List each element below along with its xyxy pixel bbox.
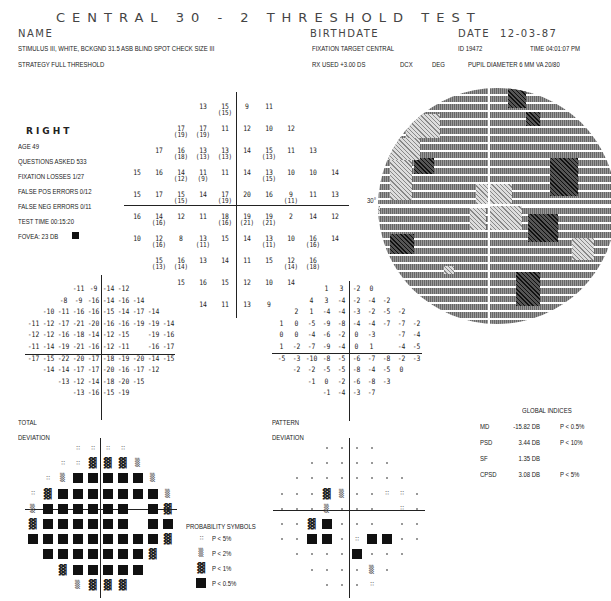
- probability-cell: [194, 576, 208, 590]
- probability-cell: [395, 547, 409, 561]
- p-0.5-square-icon: [103, 549, 113, 559]
- td-value: -16: [102, 320, 115, 327]
- pd-value: 0: [350, 331, 363, 338]
- threshold-cell: 12(16): [151, 235, 168, 249]
- pd-value: -9: [320, 320, 333, 327]
- td-value: -17: [87, 366, 100, 373]
- threshold-value: 11: [287, 146, 295, 155]
- probability-cell: [116, 563, 130, 577]
- questions-asked: QUESTIONS ASKED 533: [18, 157, 87, 166]
- normal-dot-icon: [326, 553, 328, 555]
- pd-value: -4: [365, 320, 378, 327]
- threshold-cell: 19(21): [239, 213, 256, 227]
- probability-cell: [305, 487, 319, 501]
- td-value: -11: [27, 343, 40, 350]
- rx-used: RX USED +3.00 DS: [312, 60, 365, 69]
- probability-cell: [101, 547, 115, 561]
- date-value: 12-03-87: [500, 28, 557, 39]
- p-1-symbol-icon: ▓: [149, 549, 157, 559]
- probability-cell: [305, 502, 319, 516]
- pd-value: 0: [365, 285, 378, 292]
- probability-cell: ▒: [26, 502, 40, 516]
- td-value: -12: [102, 343, 115, 350]
- pd-value: -8: [350, 366, 363, 373]
- threshold-repeat-value: (19): [173, 132, 190, 139]
- p-2-symbol-icon: ▒: [150, 474, 155, 482]
- td-value: -16: [117, 297, 130, 304]
- td-value: -14: [57, 366, 70, 373]
- threshold-cell: 8: [173, 235, 190, 242]
- threshold-repeat-value: (13): [195, 154, 212, 161]
- threshold-axis-horizontal: [124, 205, 349, 206]
- p-0.5-square-icon: [322, 534, 332, 544]
- normal-dot-icon: [326, 462, 328, 464]
- p-0.5-square-icon: [382, 534, 392, 544]
- td-value: -10: [42, 308, 55, 315]
- probability-cell: [116, 517, 130, 531]
- probability-cell: [365, 517, 379, 531]
- threshold-cell: 10: [305, 169, 322, 176]
- p-0.5-square-icon: [73, 504, 83, 514]
- pd-value: 1: [320, 285, 333, 292]
- threshold-cell: 13(15): [261, 169, 278, 183]
- threshold-cell: 10: [283, 169, 300, 176]
- threshold-value: 13: [243, 300, 251, 309]
- threshold-cell: 16(18): [305, 257, 322, 271]
- pd-value: 1: [275, 320, 288, 327]
- pd-value: 1: [365, 343, 378, 350]
- normal-dot-icon: [416, 493, 418, 495]
- normal-dot-icon: [296, 553, 298, 555]
- probability-cell: ∷: [365, 578, 379, 592]
- greyscale-stripe: [378, 280, 611, 286]
- p-0.5-square-icon: [103, 504, 113, 514]
- pd-value: -2: [365, 308, 378, 315]
- test-time-of-day: TIME 04:01:07 PM: [530, 44, 580, 53]
- probability-cell: [380, 471, 394, 485]
- pd-value: -5: [380, 366, 393, 373]
- p-0.5-square-icon: [118, 489, 128, 499]
- threshold-cell: 15: [261, 257, 278, 264]
- p-2-symbol-icon: ▒: [30, 505, 35, 513]
- pd-value: -5: [410, 343, 423, 350]
- probability-cell: ∷: [380, 487, 394, 501]
- index-value: 1.35 DB: [504, 454, 540, 463]
- p-0.5-square-icon: [133, 473, 143, 483]
- threshold-cell: 11(9): [195, 169, 212, 183]
- probability-cell: [290, 547, 304, 561]
- probability-cell: [275, 532, 289, 546]
- p-0.5-square-icon: [58, 519, 68, 529]
- threshold-value: 12: [243, 124, 251, 133]
- td-value: -15: [117, 331, 130, 338]
- probability-cell: [26, 532, 40, 546]
- pd-value: 0: [320, 378, 333, 385]
- p-0.5-square-icon: [73, 519, 83, 529]
- p-0.5-square-icon: [58, 489, 68, 499]
- td-value: -16: [162, 331, 175, 338]
- p-1-symbol-icon: ▓: [119, 580, 127, 590]
- p-5-dots-icon: ∷: [121, 445, 124, 452]
- pd-value: -6: [320, 331, 333, 338]
- greyscale-axis-vertical: [488, 88, 490, 324]
- p-0.5-square-icon: [43, 504, 53, 514]
- p-0.5-square-icon: [118, 519, 128, 529]
- pd-value: -2: [290, 366, 303, 373]
- threshold-cell: 11: [195, 213, 212, 220]
- pd-value: -2: [305, 366, 318, 373]
- threshold-repeat-value: (18): [305, 264, 322, 271]
- probability-cell: [320, 547, 334, 561]
- probability-cell: [365, 456, 379, 470]
- threshold-value: 11: [309, 190, 317, 199]
- threshold-cell: 15: [173, 279, 190, 286]
- pd-value: -5: [320, 366, 333, 373]
- threshold-cell: 15: [217, 279, 234, 286]
- threshold-value: 8: [179, 234, 183, 243]
- probability-cell: [146, 502, 160, 516]
- pd-value: -3: [380, 378, 393, 385]
- greyscale-stripe: [378, 272, 611, 278]
- greyscale-stripe: [378, 88, 611, 94]
- probability-cell: [320, 441, 334, 455]
- td-value: -14: [102, 297, 115, 304]
- td-value: -9: [87, 285, 100, 292]
- probability-cell: ▓: [161, 502, 175, 516]
- p-1-symbol-icon: ▓: [44, 489, 52, 499]
